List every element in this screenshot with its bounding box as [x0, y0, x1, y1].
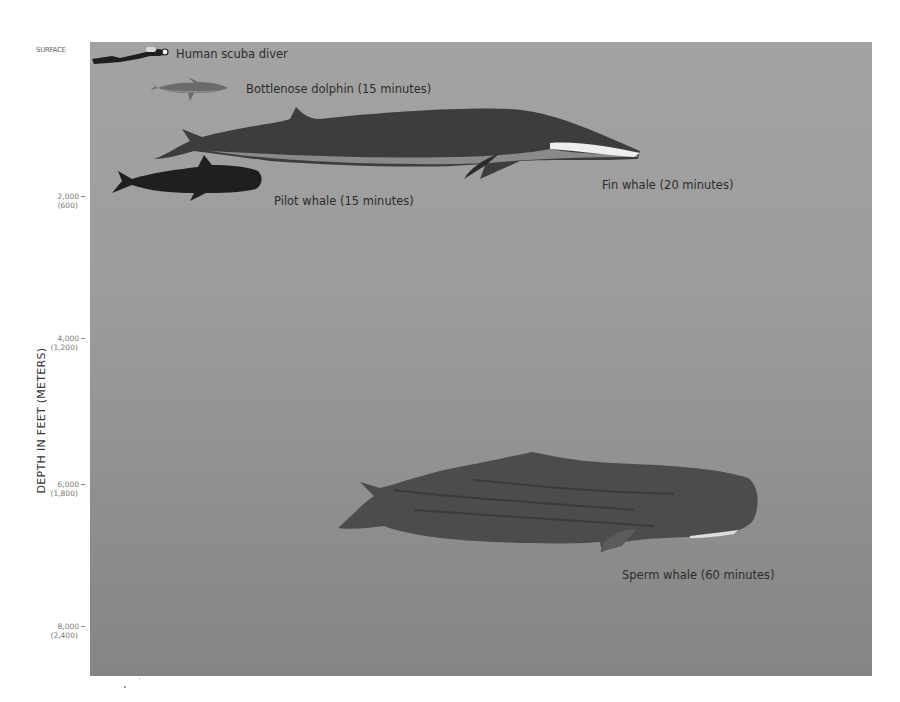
sperm-whale-illustration	[334, 450, 762, 556]
pilot-whale-label: Pilot whale (15 minutes)	[274, 194, 414, 208]
pilot-whale-illustration	[110, 153, 264, 201]
dolphin-label: Bottlenose dolphin (15 minutes)	[246, 82, 431, 96]
tick-feet: 4,000	[58, 334, 79, 343]
tick-meters: (1,200)	[51, 343, 78, 352]
tick-feet: 8,000	[58, 622, 79, 631]
tick-feet: 6,000	[58, 480, 79, 489]
tick-meters: (1,800)	[51, 489, 78, 498]
tick-feet: 2,000	[58, 192, 79, 201]
depth-axis-title: DEPTH IN FEET (METERS)	[35, 341, 48, 501]
stray-mark	[139, 678, 140, 679]
sperm-whale-label: Sperm whale (60 minutes)	[622, 568, 775, 582]
diver-label: Human scuba diver	[176, 47, 288, 61]
tick-meters: (600)	[58, 201, 78, 210]
stray-mark	[124, 686, 126, 688]
scuba-diver-icon	[90, 44, 172, 66]
tick-meters: (2,400)	[51, 631, 78, 640]
depth-tick-8000: 8,000 (2,400)	[5, 622, 85, 640]
dolphin-illustration	[148, 76, 232, 104]
surface-label: SURFACE	[36, 46, 66, 54]
depth-tick-2000: 2,000 (600)	[5, 192, 85, 210]
fin-whale-label: Fin whale (20 minutes)	[602, 178, 733, 192]
